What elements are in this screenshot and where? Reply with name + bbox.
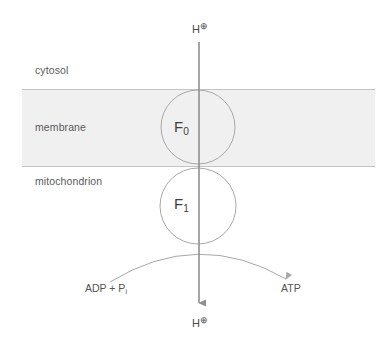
compartment-label-cytosol: cytosol <box>35 65 68 76</box>
circled-plus-icon: ⊕ <box>200 22 208 31</box>
proton-label-top: H⊕ <box>192 24 208 35</box>
proton-label-bottom: H⊕ <box>192 318 208 329</box>
pi-subscript: i <box>125 288 127 296</box>
reaction-arc-arrow <box>110 254 286 282</box>
proton-bottom-text: H <box>192 317 200 329</box>
substrate-label-adp-pi: ADP + Pi <box>85 283 127 294</box>
f1-letter: F <box>174 195 183 212</box>
f0-letter: F <box>174 118 183 135</box>
adp-text: ADP + P <box>85 282 125 294</box>
f1-subscript: 1 <box>183 203 189 214</box>
compartment-label-mitochondrion: mitochondrion <box>35 176 102 187</box>
f0-subscript: 0 <box>183 126 189 137</box>
circled-plus-icon: ⊕ <box>200 316 208 325</box>
f1-subunit-circle <box>160 168 236 244</box>
proton-top-text: H <box>192 23 200 35</box>
atp-synthase-diagram: cytosol membrane mitochondrion F0 F1 ADP… <box>0 0 391 354</box>
f1-subunit-label: F1 <box>174 196 189 211</box>
f0-subunit-label: F0 <box>174 119 189 134</box>
compartment-label-membrane: membrane <box>35 122 86 133</box>
product-label-atp: ATP <box>281 283 301 294</box>
